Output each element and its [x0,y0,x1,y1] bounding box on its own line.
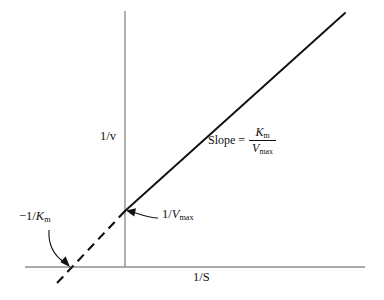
y-axis-title: 1/v [100,130,116,143]
y-axis-title-text: 1/v [100,129,116,143]
slope-fraction: Km Vmax [249,126,276,154]
slope-numerator-symbol: K [256,125,264,139]
vmax-leader-arrow [133,212,158,218]
x-intercept-label: −1/Km [19,210,51,223]
plot-canvas [0,0,384,300]
y-intercept-subscript: max [179,213,193,222]
x-axis-title-text: 1/S [193,270,210,284]
x-intercept-symbol: K [36,209,44,223]
y-intercept-prefix: 1/ [162,207,172,221]
slope-numerator-subscript: m [264,131,270,140]
x-intercept-prefix: −1/ [19,209,36,223]
slope-numerator: Km [253,126,273,140]
x-intercept-subscript: m [44,215,50,224]
slope-label-text: Slope = [208,134,245,146]
slope-denominator-subscript: max [259,147,273,156]
km-leader-arrow [49,230,64,262]
regression-solid-line [125,13,345,211]
x-axis-title: 1/S [193,271,210,284]
lineweaver-burk-figure: 1/v 1/S −1/Km 1/Vmax Slope = Km Vmax [0,0,384,300]
extrapolation-dashed-line [57,211,125,283]
y-intercept-label: 1/Vmax [162,208,194,221]
slope-annotation: Slope = Km Vmax [208,126,276,154]
slope-denominator: Vmax [249,141,276,155]
km-arrowhead-icon [60,256,70,267]
